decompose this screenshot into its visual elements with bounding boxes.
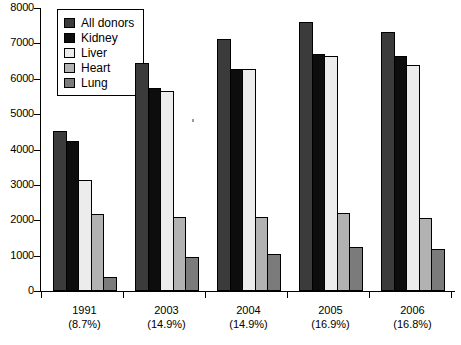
bar xyxy=(103,277,117,291)
x-axis-percent: (14.9%) xyxy=(127,317,207,331)
legend-item: All donors xyxy=(64,15,134,30)
y-axis-tick-label: 5000 xyxy=(0,108,34,119)
y-axis-tick xyxy=(34,43,40,44)
bar xyxy=(255,217,269,291)
bar-chart: 010002000300040005000600070008000 1991(8… xyxy=(0,0,461,345)
bar xyxy=(312,54,326,291)
y-axis-tick-label: 1000 xyxy=(0,250,34,261)
y-axis-tick-label: 0 xyxy=(0,285,34,296)
legend-label: Kidney xyxy=(81,32,118,44)
bar xyxy=(53,131,67,291)
bar xyxy=(381,32,395,291)
x-axis-percent: (16.8%) xyxy=(373,317,453,331)
legend-label: Heart xyxy=(81,62,110,74)
bar xyxy=(135,63,149,291)
legend-swatch-kidney xyxy=(64,33,75,43)
legend-label: All donors xyxy=(81,17,134,29)
x-axis-tick xyxy=(369,292,370,298)
scan-artifact-speck xyxy=(192,119,194,122)
x-axis-year: 2006 xyxy=(373,303,453,317)
bar xyxy=(324,56,338,291)
bar xyxy=(185,257,199,291)
x-axis-percent: (14.9%) xyxy=(209,317,289,331)
y-axis-tick-label: 7000 xyxy=(0,37,34,48)
y-axis-tick xyxy=(34,79,40,80)
y-axis-tick-label: 6000 xyxy=(0,73,34,84)
bar xyxy=(66,141,80,291)
y-axis-tick xyxy=(34,220,40,221)
bar-group xyxy=(299,8,362,291)
x-axis-tick xyxy=(41,292,42,298)
y-axis-tick xyxy=(34,185,40,186)
x-axis-tick xyxy=(205,292,206,298)
legend-swatch-all-donors xyxy=(64,18,75,28)
legend-swatch-lung xyxy=(64,78,75,88)
x-axis-line xyxy=(40,291,455,292)
legend-item: Liver xyxy=(64,45,134,60)
y-axis-tick xyxy=(34,150,40,151)
x-axis-tick xyxy=(451,292,452,298)
x-axis-percent: (8.7%) xyxy=(45,317,125,331)
bar xyxy=(267,254,281,291)
y-axis-tick xyxy=(34,8,40,9)
legend-label: Lung xyxy=(81,77,108,89)
bar-group xyxy=(381,8,444,291)
bar xyxy=(349,247,363,291)
legend-item: Lung xyxy=(64,75,134,90)
y-axis-tick xyxy=(34,114,40,115)
bar xyxy=(173,217,187,291)
x-axis-tick xyxy=(287,292,288,298)
bar xyxy=(431,249,445,291)
bar xyxy=(299,22,313,291)
bar xyxy=(91,214,105,291)
bar-group xyxy=(217,8,280,291)
x-axis-year: 2004 xyxy=(209,303,289,317)
x-axis-tick xyxy=(123,292,124,298)
y-axis-tick-label: 2000 xyxy=(0,214,34,225)
legend-item: Heart xyxy=(64,60,134,75)
x-axis-group-label: 2005(16.9%) xyxy=(291,303,371,331)
bar xyxy=(406,65,420,291)
bar xyxy=(394,56,408,291)
x-axis-group-label: 2003(14.9%) xyxy=(127,303,207,331)
legend-label: Liver xyxy=(81,47,107,59)
x-axis-year: 1991 xyxy=(45,303,125,317)
bar xyxy=(337,213,351,291)
x-axis-year: 2005 xyxy=(291,303,371,317)
x-axis-group-label: 1991(8.7%) xyxy=(45,303,125,331)
bar xyxy=(160,91,174,291)
bar-group xyxy=(135,8,198,291)
chart-legend: All donorsKidneyLiverHeartLung xyxy=(57,9,144,96)
legend-swatch-liver xyxy=(64,48,75,58)
y-axis-tick-label: 4000 xyxy=(0,144,34,155)
x-axis-year: 2003 xyxy=(127,303,207,317)
bar xyxy=(419,218,433,291)
legend-item: Kidney xyxy=(64,30,134,45)
y-axis-tick xyxy=(34,256,40,257)
y-axis-tick-label: 3000 xyxy=(0,179,34,190)
bar xyxy=(148,88,162,291)
bar xyxy=(242,69,256,292)
x-axis-group-label: 2006(16.8%) xyxy=(373,303,453,331)
x-axis-group-label: 2004(14.9%) xyxy=(209,303,289,331)
y-axis-tick-label: 8000 xyxy=(0,2,34,13)
bar xyxy=(217,39,231,291)
legend-swatch-heart xyxy=(64,63,75,73)
bar xyxy=(78,180,92,291)
x-axis-percent: (16.9%) xyxy=(291,317,371,331)
bar xyxy=(230,69,244,291)
